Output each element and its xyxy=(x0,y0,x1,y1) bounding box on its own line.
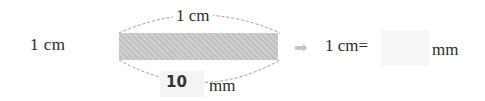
length-bar xyxy=(119,33,278,60)
answer-blank-box[interactable] xyxy=(381,30,429,66)
bar-top-label: 1 cm xyxy=(173,6,213,26)
equation-unit: mm xyxy=(432,40,458,60)
answer-value-bottom: 10 xyxy=(166,73,187,91)
equation-lhs: 1 cm= xyxy=(325,36,368,56)
bottom-unit-label: mm xyxy=(209,76,235,96)
arrow-right-icon: ➡ xyxy=(294,38,307,57)
left-measure-label: 1 cm xyxy=(30,35,66,55)
